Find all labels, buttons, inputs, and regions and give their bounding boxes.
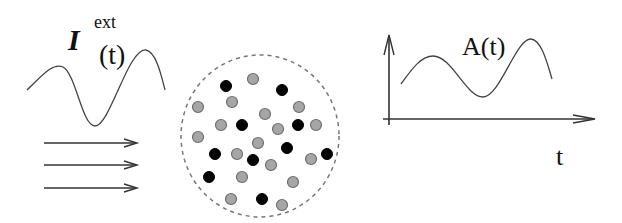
- input-argument: (t): [99, 39, 125, 70]
- time-axis-label: t: [556, 142, 564, 171]
- neuron-gray: [306, 154, 317, 165]
- neuron-gray: [294, 102, 305, 113]
- output-panel: A(t) t: [383, 32, 595, 171]
- neuron-population: [181, 55, 339, 217]
- population-boundary: [181, 55, 339, 217]
- input-arrow: [44, 139, 137, 147]
- neuron-black: [282, 143, 293, 154]
- input-panel: I ext (t): [27, 12, 165, 192]
- neuron-gray: [193, 102, 204, 113]
- neuron-black: [248, 155, 259, 166]
- neuron-gray: [227, 97, 238, 108]
- input-symbol: I: [67, 23, 81, 56]
- neuron-gray: [273, 124, 284, 135]
- neuron-gray: [193, 132, 204, 143]
- neuron-dots: [193, 74, 333, 211]
- neuron-gray: [226, 194, 237, 205]
- network-diagram: I ext (t) A(t): [0, 0, 622, 223]
- neuron-gray: [277, 200, 288, 211]
- neuron-gray: [260, 109, 271, 120]
- neuron-black: [210, 149, 221, 160]
- input-arrows: [44, 139, 137, 192]
- neuron-black: [237, 120, 248, 131]
- input-arrow: [44, 184, 137, 192]
- activity-label: A(t): [462, 32, 505, 61]
- neuron-gray: [266, 160, 277, 171]
- input-arrow: [44, 161, 137, 169]
- neuron-gray: [232, 149, 243, 160]
- neuron-black: [293, 120, 304, 131]
- neuron-black: [204, 172, 215, 183]
- neuron-gray: [253, 138, 264, 149]
- neuron-gray: [216, 120, 227, 131]
- neuron-gray: [237, 172, 248, 183]
- input-superscript: ext: [94, 12, 116, 32]
- input-signal-curve: [27, 50, 165, 126]
- neuron-black: [257, 194, 268, 205]
- neuron-gray: [248, 74, 259, 85]
- neuron-gray: [311, 120, 322, 131]
- neuron-black: [277, 85, 288, 96]
- neuron-black: [221, 81, 232, 92]
- neuron-gray: [288, 177, 299, 188]
- neuron-black: [322, 149, 333, 160]
